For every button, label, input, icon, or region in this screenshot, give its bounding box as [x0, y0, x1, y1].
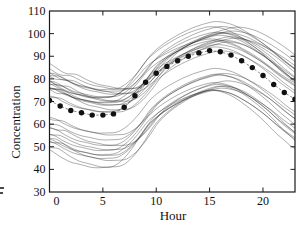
- mean-dot: [58, 103, 63, 108]
- profile-line: [50, 90, 296, 155]
- x-tick-label: 20: [257, 194, 269, 208]
- mean-dot: [154, 71, 159, 76]
- x-tick-label: 15: [204, 194, 216, 208]
- mean-dot: [132, 93, 137, 98]
- x-tick-label: 10: [150, 194, 162, 208]
- mean-dot: [207, 48, 212, 53]
- mean-dot: [111, 111, 116, 116]
- mean-dot: [271, 82, 276, 87]
- y-tick-label: 110: [28, 4, 46, 18]
- profile-line: [50, 27, 296, 92]
- y-tick-label: 40: [34, 162, 46, 176]
- stray-text-fragment: [0, 192, 3, 194]
- mean-dot: [260, 73, 265, 78]
- mean-dot: [282, 90, 287, 95]
- y-tick-label: 100: [28, 27, 46, 41]
- mean-dot: [79, 110, 84, 115]
- mean-dot: [250, 65, 255, 70]
- concentration-vs-hour-chart: 3040506070809010011005101520: [0, 0, 303, 238]
- x-tick-label: 0: [54, 194, 60, 208]
- y-tick-label: 70: [34, 95, 46, 109]
- profile-line: [50, 75, 296, 140]
- stray-text-fragment: [0, 187, 4, 189]
- y-tick-label: 50: [34, 140, 46, 154]
- y-tick-label: 30: [34, 185, 46, 199]
- chart-figure: 3040506070809010011005101520 Concentrati…: [0, 0, 303, 238]
- mean-dot: [164, 64, 169, 69]
- mean-dot: [143, 80, 148, 85]
- profile-line: [50, 32, 296, 97]
- mean-dot: [218, 49, 223, 54]
- mean-dot: [122, 105, 127, 110]
- y-tick-label: 60: [34, 117, 46, 131]
- x-axis-label: Hour: [160, 208, 187, 224]
- mean-dot: [90, 112, 95, 117]
- mean-dot: [175, 58, 180, 63]
- y-tick-label: 80: [34, 72, 46, 86]
- plot-area: [47, 22, 298, 168]
- mean-dot: [196, 50, 201, 55]
- mean-dot: [228, 52, 233, 57]
- y-axis-label: Concentration: [8, 85, 24, 159]
- mean-dot: [239, 58, 244, 63]
- mean-dot: [186, 54, 191, 59]
- profile-line: [50, 42, 296, 110]
- x-tick-label: 5: [100, 194, 106, 208]
- y-tick-label: 90: [34, 49, 46, 63]
- mean-dot: [100, 112, 105, 117]
- mean-dot: [68, 108, 73, 113]
